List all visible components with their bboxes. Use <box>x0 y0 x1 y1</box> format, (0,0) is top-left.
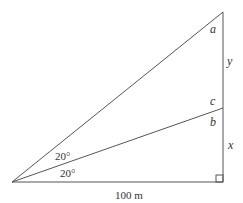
label-y: y <box>226 54 233 68</box>
label-a: a <box>210 22 216 36</box>
triangle-diagram: a y c b x 20° 20° 100 m <box>0 0 243 203</box>
label-c: c <box>210 94 216 108</box>
angle-lower-label: 20° <box>60 167 75 179</box>
lower-hypotenuse <box>12 108 223 182</box>
label-x: x <box>227 138 234 152</box>
upper-hypotenuse <box>12 12 223 182</box>
base-length-label: 100 m <box>115 189 143 201</box>
label-b: b <box>210 115 216 129</box>
angle-upper-label: 20° <box>55 150 70 162</box>
right-angle-marker <box>216 175 223 182</box>
